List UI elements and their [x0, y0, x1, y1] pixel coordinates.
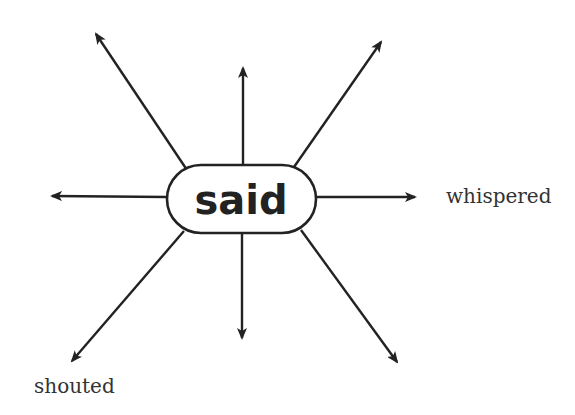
arrow-left — [52, 196, 167, 197]
arrow-down-right — [301, 230, 397, 362]
center-word: said — [194, 177, 287, 223]
label-shouted: shouted — [34, 374, 115, 398]
arrow-up-right — [294, 42, 381, 167]
word-web-diagram: said whispered shouted — [0, 0, 575, 415]
arrow-down-left — [72, 231, 184, 361]
label-whispered: whispered — [446, 184, 552, 208]
arrow-up-left — [96, 34, 187, 170]
